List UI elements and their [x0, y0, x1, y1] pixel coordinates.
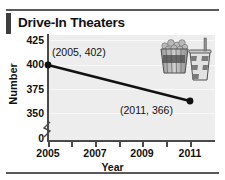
- y-tick-label-425: 425: [14, 35, 44, 46]
- data-point-label-2011: (2011, 366): [120, 105, 173, 116]
- gridline-375: [48, 89, 215, 90]
- x-tick-label-2005: 2005: [28, 148, 68, 159]
- bottom-divider: [6, 172, 219, 174]
- x-tick-2006: [71, 142, 73, 147]
- x-tick-label-2007: 2007: [75, 148, 115, 159]
- x-tick-2010: [166, 142, 168, 147]
- x-tick-label-2011: 2011: [170, 148, 210, 159]
- y-axis-title: Number: [7, 54, 19, 114]
- y-tick-label-zero: 0: [14, 133, 44, 144]
- popcorn-and-soda-illustration: [152, 36, 214, 86]
- axis-break-icon: [41, 120, 55, 138]
- data-point-label-2005: (2005, 402): [52, 47, 106, 58]
- title-accent-bar: [6, 13, 11, 34]
- x-tick-label-2009: 2009: [122, 148, 162, 159]
- figure-container: Drive-In Theaters 425 400 375 350 0 Numb…: [0, 0, 225, 180]
- x-tick-2008: [119, 142, 121, 147]
